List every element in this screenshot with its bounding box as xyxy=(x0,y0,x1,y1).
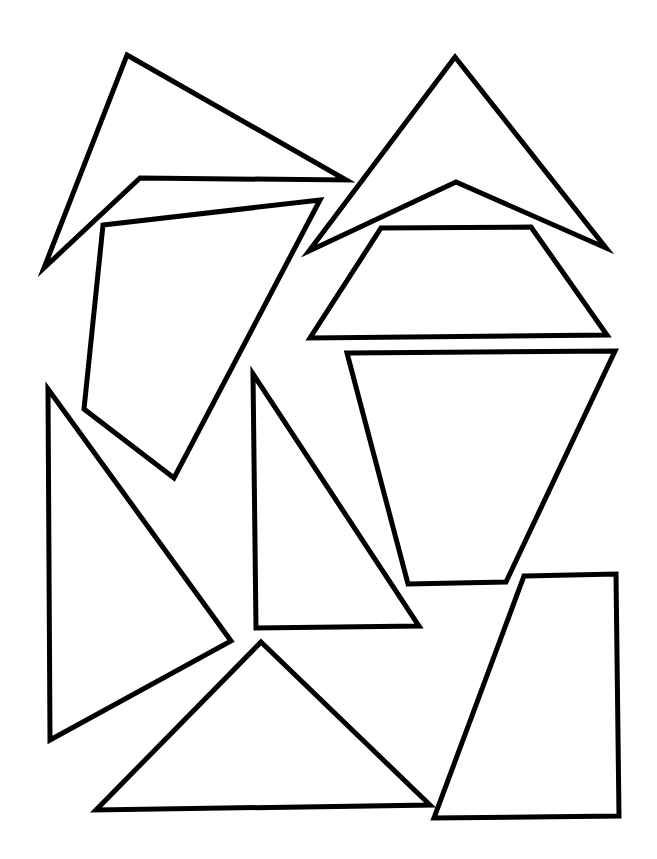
top-right-arrowhead xyxy=(309,57,606,251)
upper-right-trapezoid xyxy=(310,227,607,338)
middle-right-inverted-trapezoid xyxy=(347,351,615,584)
shapes-canvas xyxy=(0,0,657,859)
bottom-right-quadrilateral xyxy=(434,574,619,818)
